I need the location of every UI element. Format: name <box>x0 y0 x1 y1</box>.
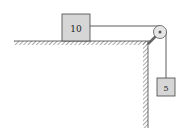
block-5-label: 5 <box>163 84 168 93</box>
pulley-diagram: 10 5 <box>0 0 186 134</box>
table-edge-wall <box>143 41 148 128</box>
pulley <box>154 26 167 39</box>
block-5: 5 <box>157 78 175 96</box>
block-10: 10 <box>62 14 90 41</box>
table-surface <box>14 41 150 45</box>
block-10-label: 10 <box>70 24 82 34</box>
